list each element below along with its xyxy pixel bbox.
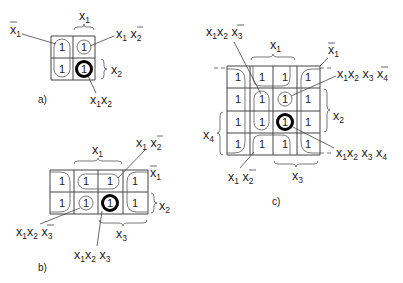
lead-c-x1bar xyxy=(320,58,328,66)
lead-b-x1x2x3bar xyxy=(40,208,80,224)
cell-c-13: 1 xyxy=(305,93,311,105)
cell-c-02: 1 xyxy=(282,71,288,83)
kmap-a: 1 1 1 1 x1 x2 x1 x1 x2 x1x2 a) xyxy=(10,9,143,109)
cell-b-13: 1 xyxy=(132,197,138,209)
label-c-x1x2bar: x1 x2 xyxy=(228,170,254,186)
cell-a-10: 1 xyxy=(59,63,65,75)
label-b-x1x2x3: x1x2 x3 xyxy=(74,248,111,264)
lead-b-x1x2x3 xyxy=(97,211,102,246)
cell-b-03: 1 xyxy=(132,175,138,187)
brace-b-x2 xyxy=(151,193,157,213)
cell-b-11: 1 xyxy=(83,197,89,209)
kmap-c: 1 1 1 1 1 1 1 1 1 1 1 1 1 1 1 1 x1 x1 x1… xyxy=(203,25,388,207)
cell-c-32: 1 xyxy=(282,138,288,150)
label-a-x2: x2 xyxy=(111,63,122,79)
brace-c-x3 xyxy=(274,161,318,167)
cell-a-00: 1 xyxy=(59,41,65,53)
label-b-x1x2bar: x1 x2 xyxy=(136,136,162,152)
label-c-x1x2x3x4: x1x2 x3 x4 xyxy=(336,146,387,162)
cell-b-00: 1 xyxy=(59,175,65,187)
lead-a-x1x2bar xyxy=(90,36,114,46)
cell-c-00: 1 xyxy=(235,71,241,83)
lead-c-x1x2x3bar xyxy=(234,42,261,94)
cell-c-33: 1 xyxy=(305,138,311,150)
cell-b-01: 1 xyxy=(83,175,89,187)
label-c-x2: x2 xyxy=(333,109,344,125)
cell-a-11: 1 xyxy=(81,63,87,75)
label-b-x1bar: x1 xyxy=(150,166,161,182)
brace-a-x1 xyxy=(74,24,94,30)
label-a-x1: x1 xyxy=(79,9,90,25)
cell-c-03: 1 xyxy=(305,71,311,83)
brace-c-x2 xyxy=(324,89,330,132)
cell-b-12: 1 xyxy=(107,197,113,209)
label-c-x1: x1 xyxy=(270,38,281,54)
label-c-x1bar: x1 xyxy=(328,43,339,59)
caption-a: a) xyxy=(38,94,47,105)
label-c-x1x2x3x4bar: x1x2 x3 x4 xyxy=(337,67,388,83)
label-b-x1x2x3bar: x1x2 x3 xyxy=(16,225,53,241)
label-a-x1x2: x1x2 xyxy=(90,93,112,109)
brace-a-x2 xyxy=(101,59,107,79)
brace-b-x3 xyxy=(99,220,147,226)
label-a-x1bar: x1 xyxy=(10,23,21,39)
cell-c-23: 1 xyxy=(305,116,311,128)
cell-c-20: 1 xyxy=(235,116,241,128)
cell-c-11: 1 xyxy=(259,93,265,105)
cell-c-31: 1 xyxy=(259,138,265,150)
label-c-x1x2x3bar: x1x2 x3 xyxy=(206,25,243,41)
cell-c-01: 1 xyxy=(259,71,265,83)
lead-c-x1x2bar xyxy=(240,152,254,168)
kmap-b: 1 1 1 1 1 1 1 1 x1 x1 x2 x1 x2 x3 x1x2 x… xyxy=(16,136,170,273)
brace-c-x1 xyxy=(251,54,295,60)
cell-c-21: 1 xyxy=(259,116,265,128)
label-b-x2: x2 xyxy=(159,199,170,215)
label-c-x4: x4 xyxy=(203,128,214,144)
cell-c-30: 1 xyxy=(235,138,241,150)
cell-c-12: 1 xyxy=(282,93,288,105)
karnaugh-figure: 1 1 1 1 x1 x2 x1 x1 x2 x1x2 a) xyxy=(0,0,403,283)
cell-b-10: 1 xyxy=(59,197,65,209)
label-b-x3: x3 xyxy=(116,227,127,243)
label-a-x1x2bar: x1 x2 xyxy=(116,27,142,43)
cell-c-22: 1 xyxy=(282,116,288,128)
cell-a-01: 1 xyxy=(81,41,87,53)
label-b-x1: x1 xyxy=(92,143,103,159)
cell-b-02: 1 xyxy=(107,175,113,187)
lead-c-x1x2x3x4bar xyxy=(291,76,336,96)
cell-c-10: 1 xyxy=(235,93,241,105)
brace-c-x4 xyxy=(217,112,223,155)
label-c-x3: x3 xyxy=(292,169,303,185)
caption-b: b) xyxy=(38,262,47,273)
caption-c: c) xyxy=(272,196,280,207)
